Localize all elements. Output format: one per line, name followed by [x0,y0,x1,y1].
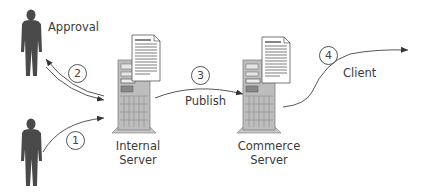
internal-server-label: Internal Server [107,139,169,167]
step-badge-3: 3 [191,66,210,85]
person-icon [21,119,42,187]
internal-server-label-line2: Server [107,153,169,167]
commerce-server-label-line2: Server [233,153,305,167]
person-icon [21,10,42,77]
commerce-server-label-line1: Commerce [233,139,305,153]
approval-label: Approval [48,20,99,34]
step-badge-1: 1 [66,131,85,150]
commerce-server-label: Commerce Server [233,139,305,167]
publish-label: Publish [185,94,226,108]
step-badge-4: 4 [319,46,338,65]
internal-server-label-line1: Internal [107,139,169,153]
document-icon [262,37,290,83]
client-label: Client [343,66,376,80]
step-badge-2: 2 [68,64,87,83]
document-icon [132,35,160,81]
